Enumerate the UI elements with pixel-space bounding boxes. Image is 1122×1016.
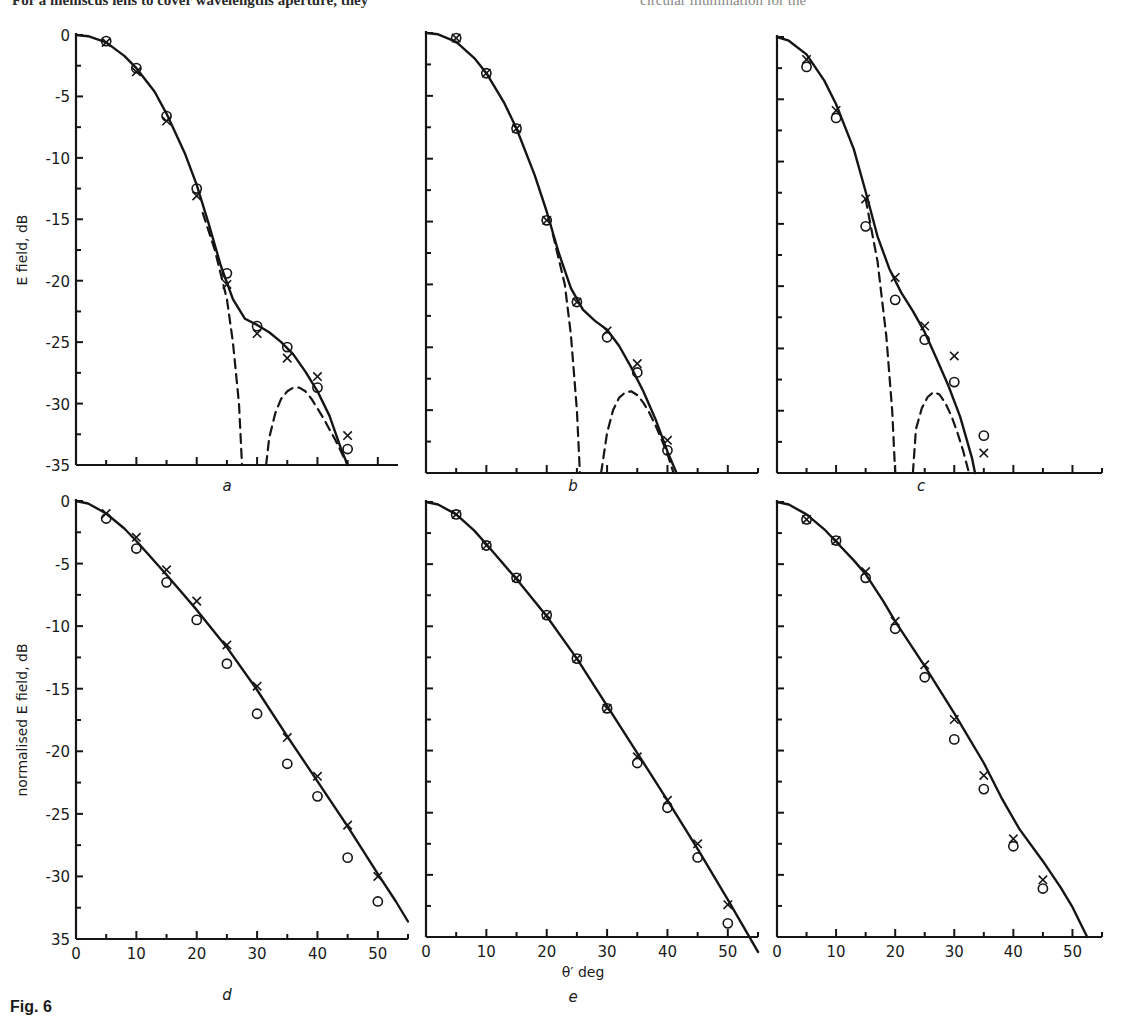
circle-marker	[723, 919, 732, 928]
x-tick-label: 20	[187, 945, 206, 963]
cross-marker	[633, 359, 641, 367]
panel-label: a	[222, 477, 231, 495]
panel-label: b	[568, 477, 578, 495]
x-tick-label: 20	[886, 943, 905, 961]
y-tick-label: 0	[60, 493, 70, 511]
x-tick-label: 40	[308, 945, 327, 963]
cross-marker	[313, 372, 321, 380]
y-tick-label: 35	[51, 931, 70, 949]
circle-marker	[861, 222, 870, 231]
x-axis-title: θ′ deg	[562, 964, 605, 980]
y-tick-label: -20	[46, 273, 71, 291]
circle-marker	[283, 759, 292, 768]
x-tick-label: 40	[1004, 943, 1023, 961]
circle-marker	[891, 295, 900, 304]
y-tick-label: -5	[55, 88, 70, 106]
panel-label: c	[917, 477, 926, 495]
y-tick-label: -25	[46, 334, 71, 352]
x-tick-label: 20	[537, 943, 556, 961]
circle-marker	[373, 897, 382, 906]
circle-marker	[343, 444, 352, 453]
x-tick-label: 0	[71, 945, 81, 963]
circle-marker	[950, 735, 959, 744]
x-tick-label: 30	[598, 943, 617, 961]
y-tick-label: -15	[46, 681, 71, 699]
panel-d: 0-5-10-15-20-25-303501020304050normalise…	[14, 493, 408, 1004]
y-tick-label: 0	[60, 27, 70, 45]
panel-b: b	[426, 31, 758, 495]
y-tick-label: -20	[46, 743, 71, 761]
circle-marker	[222, 659, 231, 668]
theory-dashed-curve	[266, 388, 348, 465]
circle-marker	[343, 853, 352, 862]
circle-marker	[1038, 884, 1047, 893]
x-tick-label: 10	[477, 943, 496, 961]
y-tick-label: -10	[46, 150, 71, 168]
circle-marker	[920, 673, 929, 682]
x-tick-label: 30	[248, 945, 267, 963]
circle-marker	[950, 377, 959, 386]
y-tick-label: -30	[46, 396, 71, 414]
cross-marker	[283, 354, 291, 362]
cross-marker	[193, 597, 201, 605]
circle-marker	[979, 431, 988, 440]
theory-curve	[76, 35, 348, 465]
theory-dashed-curve	[913, 392, 969, 473]
theory-dashed-curve	[203, 213, 242, 465]
theory-curve	[426, 33, 677, 473]
y-axis-title: normalised E field, dB	[14, 643, 30, 796]
panel-e: 01020304050θ′ dege	[421, 500, 758, 1006]
y-tick-label: -5	[55, 556, 70, 574]
y-tick-label: -25	[46, 806, 71, 824]
theory-curve	[777, 37, 975, 473]
x-tick-label: 50	[718, 943, 737, 961]
theory-curve	[777, 502, 1087, 937]
y-tick-label: -10	[46, 618, 71, 636]
panel-label: d	[222, 986, 232, 1004]
x-tick-label: 10	[127, 945, 146, 963]
x-tick-label: 0	[772, 943, 782, 961]
theory-dashed-curve	[601, 391, 673, 473]
circle-marker	[979, 785, 988, 794]
theory-dashed-curve	[866, 199, 896, 473]
y-tick-label: -35	[46, 457, 71, 475]
x-tick-label: 30	[945, 943, 964, 961]
cross-marker	[1039, 876, 1047, 884]
circle-marker	[192, 615, 201, 624]
panel-a: 0-5-10-15-20-25-30-35E field, dBa	[14, 27, 398, 495]
x-tick-label: 10	[827, 943, 846, 961]
y-tick-label: -30	[46, 868, 71, 886]
theory-curve	[426, 502, 758, 952]
y-tick-label: -15	[46, 211, 71, 229]
circle-marker	[313, 792, 322, 801]
x-tick-label: 50	[368, 945, 387, 963]
y-axis-title: E field, dB	[14, 215, 30, 286]
x-tick-label: 40	[658, 943, 677, 961]
circle-marker	[252, 709, 261, 718]
theory-dashed-curve	[553, 234, 580, 473]
figure-caption: Fig. 6	[10, 998, 52, 1016]
panel-c: c	[777, 35, 1102, 495]
cross-marker	[980, 771, 988, 779]
panel-label: e	[568, 988, 577, 1006]
cross-marker	[980, 449, 988, 457]
x-tick-label: 50	[1063, 943, 1082, 961]
x-tick-label: 0	[421, 943, 431, 961]
theory-curve	[76, 501, 408, 922]
cross-marker	[343, 431, 351, 439]
cross-marker	[950, 352, 958, 360]
panel-f: 01020304050	[772, 500, 1102, 961]
